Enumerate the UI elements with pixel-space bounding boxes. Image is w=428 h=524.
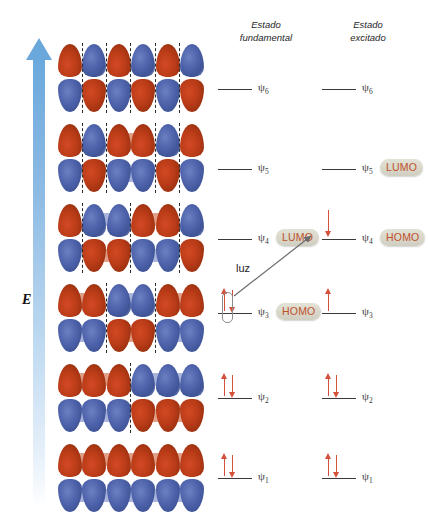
electron-spin-group [220,373,254,399]
p-lobe-lower [107,399,131,432]
p-lobe-lower [82,479,106,512]
p-lobe-lower [58,399,82,432]
excited-level-psi3: ψ3 [318,300,428,326]
p-lobe-upper [131,124,155,157]
p-orbital [180,44,204,112]
p-lobe-lower [107,479,131,512]
orbital-label: ψ6 [362,81,373,96]
p-lobe-lower [131,79,155,112]
energy-level-bar [322,89,356,90]
electron-spin-group [220,453,254,479]
electron-spin-group [324,373,358,399]
p-lobe-upper [156,204,180,237]
ground-level-psi6: ψ6 [214,76,324,102]
mo-lobes-psi3 [58,284,204,352]
arrow-head [229,472,235,478]
p-lobe-upper [180,204,204,237]
mo-row-psi1 [58,444,204,512]
nodal-plane-dash [106,123,107,193]
nodal-plane-dash [179,43,180,113]
p-lobe-upper [58,124,82,157]
p-lobe-upper [107,284,131,317]
p-lobe-upper [131,44,155,77]
p-lobe-lower [156,159,180,192]
p-orbital [107,204,131,272]
orbital-label: ψ3 [258,305,269,320]
excited-state-column: Estado excitado ψ6ψ5LUMOψ4HOMOψ3ψ2ψ1 [318,0,428,524]
arrow-head [325,453,331,459]
ground-level-psi4: ψ4LUMO [214,226,324,252]
arrow-head [333,472,339,478]
p-lobe-lower [58,79,82,112]
p-orbital [58,444,82,512]
electron-arrow-dn [228,453,237,478]
p-orbital [82,204,106,272]
p-orbital [82,444,106,512]
excited-state-heading-line2: excitado [318,31,418,44]
p-lobe-upper [131,364,155,397]
p-orbital [107,444,131,512]
excited-level-psi6: ψ6 [318,76,428,102]
ground-state-heading: Estado fundamental [214,18,318,44]
orbital-label: ψ1 [362,470,373,485]
p-lobe-upper [82,284,106,317]
p-orbital [156,204,180,272]
orbital-label: ψ4 [258,231,269,246]
electron-spin-group [324,453,358,479]
excited-level-psi2: ψ2 [318,385,428,411]
mo-lobes-psi4 [58,204,204,272]
orbital-label: ψ1 [258,470,269,485]
electron-arrow-dn [332,453,341,478]
p-lobe-upper [180,444,204,477]
p-lobe-lower [180,479,204,512]
p-lobe-lower [180,239,204,272]
electron-arrow-up [324,288,333,313]
p-orbital [107,44,131,112]
orbital-label: ψ4 [362,231,373,246]
energy-level-bar [322,239,356,240]
p-orbital [156,44,180,112]
light-transition-label: luz [236,262,250,274]
p-lobe-upper [180,124,204,157]
nodal-plane-dash [155,283,156,353]
mo-lobes-psi2 [58,364,204,432]
p-orbital [82,284,106,352]
p-lobe-lower [156,79,180,112]
p-lobe-lower [180,399,204,432]
nodal-plane-dash [130,203,131,273]
excited-state-heading: Estado excitado [318,18,418,44]
p-orbital [58,44,82,112]
p-lobe-lower [180,159,204,192]
p-orbital [58,364,82,432]
p-orbital [180,124,204,192]
arrow-head [325,373,331,379]
energy-level-bar [218,89,252,90]
mo-row-psi4 [58,204,204,272]
p-lobe-upper [107,44,131,77]
p-lobe-upper [180,44,204,77]
p-orbital [131,204,155,272]
p-lobe-lower [58,319,82,352]
orbital-label: ψ5 [258,161,269,176]
nodal-plane-dash [130,363,131,433]
p-lobe-upper [156,284,180,317]
p-lobe-lower [131,319,155,352]
nodal-plane-dash [155,43,156,113]
energy-level-bar [218,169,252,170]
excited-level-psi1: ψ1 [318,465,428,491]
p-orbital [156,444,180,512]
p-orbital [180,284,204,352]
p-orbital [131,364,155,432]
nodal-plane-dash [130,43,131,113]
p-orbital [82,44,106,112]
excited-level-psi4: ψ4HOMO [318,226,428,252]
p-orbital [180,364,204,432]
p-orbital [131,444,155,512]
p-lobe-lower [156,239,180,272]
nodal-plane-dash [155,123,156,193]
ground-state-heading-line2: fundamental [214,31,318,44]
nodal-plane-dash [179,123,180,193]
p-lobe-lower [107,159,131,192]
p-lobe-lower [131,239,155,272]
p-lobe-lower [107,319,131,352]
